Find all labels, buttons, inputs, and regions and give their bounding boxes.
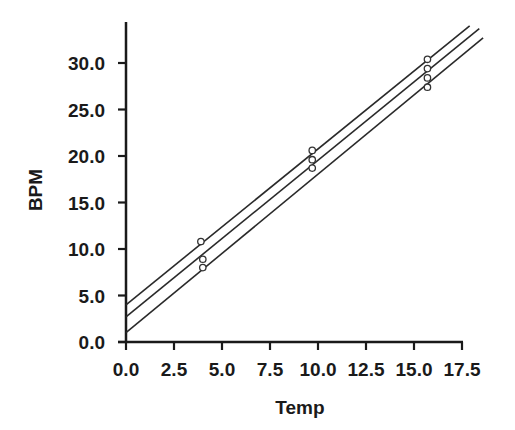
upper-confidence-band-line [126,26,470,305]
y-tick-label: 10.0 [68,239,105,260]
y-axis-title: BPM [25,169,46,211]
data-point-marker [309,165,315,171]
data-point-marker [198,238,204,244]
x-tick-label: 17.5 [444,359,481,380]
y-tick-label: 25.0 [68,100,105,121]
data-point-marker [309,157,315,163]
x-tick-label: 15.0 [396,359,433,380]
data-point-marker [309,147,315,153]
data-point-marker [424,75,430,81]
x-tick-label: 5.0 [209,359,235,380]
y-tick-label: 0.0 [79,332,105,353]
lower-confidence-band-line [126,38,483,333]
x-tick-label: 0.0 [113,359,139,380]
x-tick-label: 7.5 [257,359,284,380]
data-point-marker [424,65,430,71]
data-point-marker [200,256,206,262]
y-tick-label: 15.0 [68,193,105,214]
y-tick-label: 30.0 [68,53,105,74]
y-tick-label: 20.0 [68,146,105,167]
scatter-chart: 0.02.55.07.510.012.515.017.50.05.010.015… [0,0,515,430]
data-point-marker [200,264,206,270]
data-point-marker [424,56,430,62]
x-tick-label: 12.5 [348,359,385,380]
x-tick-label: 10.0 [300,359,337,380]
axes: 0.02.55.07.510.012.515.017.50.05.010.015… [68,22,481,380]
y-tick-label: 5.0 [79,286,105,307]
x-axis-title: Temp [275,397,324,418]
fit-lines [126,26,483,333]
data-point-marker [424,84,430,90]
x-tick-label: 2.5 [161,359,188,380]
